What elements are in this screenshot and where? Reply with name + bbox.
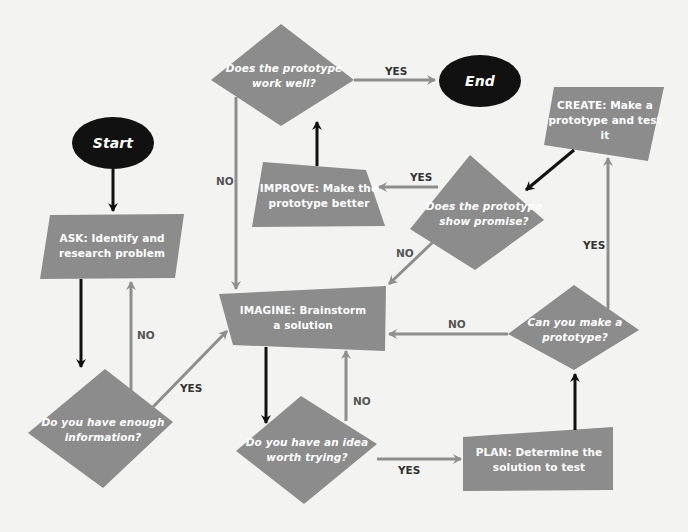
idea-worth-decision-shape [236,396,377,504]
edge-label-promise-no: NO [396,247,414,259]
end-terminal [439,55,521,107]
create-step-shape [544,87,664,161]
start-terminal [72,117,154,169]
arrow-create-to-promise [526,150,574,190]
edge-label-work-well-yes: YES [385,65,407,77]
improve-step-shape [252,162,385,227]
edge-label-idea-no: NO [353,395,371,407]
can-make-decision-shape [508,285,639,370]
engineering-design-flowchart: Start End ASK: Identify and research pro… [0,0,688,532]
plan-step-shape [463,427,613,491]
flowchart-canvas [0,0,688,532]
work-well-decision-shape [211,24,354,126]
edge-label-enough-info-yes: YES [180,382,202,394]
edge-label-promise-yes: YES [410,171,432,183]
edge-label-idea-yes: YES [398,464,420,476]
ask-step-shape [40,214,184,279]
edge-label-work-well-no: NO [216,175,234,187]
edge-label-can-make-yes: YES [583,239,605,251]
edge-label-can-make-no: NO [448,318,466,330]
enough-info-decision-shape [28,369,173,488]
imagine-step-shape [219,286,386,351]
arrow-enough-info-yes [152,331,227,408]
edge-label-enough-info-no: NO [137,329,155,341]
